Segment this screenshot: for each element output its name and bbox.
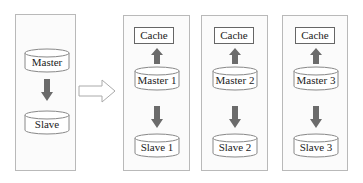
slave-db: Slave 3 bbox=[293, 133, 339, 157]
panel-shard-2: Cache Master 2 Slave 2 bbox=[201, 15, 268, 171]
cache-box: Cache bbox=[134, 27, 174, 44]
slave-label: Slave 1 bbox=[134, 141, 180, 153]
arrow-up-icon bbox=[151, 48, 163, 64]
master-db: Master bbox=[24, 48, 70, 72]
slave-label: Slave 2 bbox=[212, 141, 258, 153]
arrow-down-icon bbox=[41, 79, 53, 101]
master-db: Master 1 bbox=[134, 66, 180, 90]
arrow-down-icon bbox=[310, 106, 322, 128]
master-label: Master 1 bbox=[134, 74, 180, 86]
slave-label: Slave bbox=[24, 118, 70, 130]
arrow-up-icon bbox=[310, 48, 322, 64]
panel-single-master: Master Slave bbox=[15, 14, 76, 171]
master-db: Master 3 bbox=[293, 66, 339, 90]
arrow-down-icon bbox=[151, 106, 163, 128]
master-label: Master 3 bbox=[293, 74, 339, 86]
hollow-right-arrow-icon bbox=[78, 79, 116, 103]
slave-label: Slave 3 bbox=[293, 141, 339, 153]
master-label: Master bbox=[24, 56, 70, 68]
master-label: Master 2 bbox=[212, 74, 258, 86]
panel-shard-3: Cache Master 3 Slave 3 bbox=[282, 15, 348, 171]
slave-db: Slave 2 bbox=[212, 133, 258, 157]
arrow-up-icon bbox=[229, 48, 241, 64]
panel-shard-1: Cache Master 1 Slave 1 bbox=[123, 15, 190, 171]
cache-box: Cache bbox=[295, 27, 335, 44]
arrow-down-icon bbox=[229, 106, 241, 128]
cache-box: Cache bbox=[214, 27, 254, 44]
master-db: Master 2 bbox=[212, 66, 258, 90]
slave-db: Slave bbox=[24, 110, 70, 134]
slave-db: Slave 1 bbox=[134, 133, 180, 157]
